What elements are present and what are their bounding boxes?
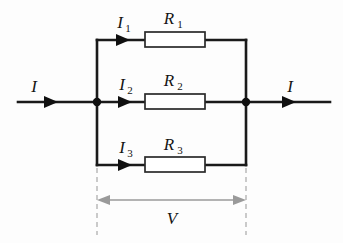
label-branch1-current: I <box>116 13 124 32</box>
branch3-current-arrow-icon <box>118 159 132 171</box>
left-junction-node <box>93 98 101 106</box>
branch1-current-arrow-icon <box>116 34 130 46</box>
resistor-r2-body <box>145 94 205 109</box>
label-branch1-current-subscript: 1 <box>125 22 131 34</box>
bottom-branch-group <box>97 157 246 172</box>
right-junction-node <box>242 98 250 106</box>
label-resistor-r1-subscript: 1 <box>177 18 183 30</box>
resistor-r3-body <box>145 157 205 172</box>
circuit-diagram-canvas: I I I 1 I 2 I 3 R 1 R 2 R 3 V <box>0 0 343 243</box>
output-wire-group <box>246 96 330 108</box>
dimension-arrowhead-left-icon <box>97 195 110 205</box>
label-resistor-r1: R <box>163 9 175 28</box>
label-branch2-current: I <box>118 75 126 94</box>
label-resistor-r2-subscript: 2 <box>177 80 183 92</box>
label-branch2-current-subscript: 2 <box>127 84 133 96</box>
label-resistor-r3: R <box>163 135 175 154</box>
middle-branch-group <box>97 94 246 109</box>
voltage-dimension-arrow <box>97 195 246 205</box>
circuit-schematic: I I I 1 I 2 I 3 R 1 R 2 R 3 V <box>0 0 343 243</box>
label-output-current: I <box>286 77 294 96</box>
top-branch-group <box>97 32 246 47</box>
branch2-current-arrow-icon <box>118 96 132 108</box>
label-branch3-current: I <box>118 138 126 157</box>
label-branch3-current-subscript: 3 <box>127 147 133 159</box>
input-current-arrow-icon <box>44 96 58 108</box>
output-current-arrow-icon <box>282 96 296 108</box>
label-resistor-r2: R <box>163 71 175 90</box>
label-resistor-r3-subscript: 3 <box>177 144 183 156</box>
input-wire-group <box>18 96 97 108</box>
label-input-current: I <box>30 77 38 96</box>
dimension-arrowhead-right-icon <box>233 195 246 205</box>
resistor-r1-body <box>145 32 205 47</box>
label-voltage: V <box>167 209 180 228</box>
